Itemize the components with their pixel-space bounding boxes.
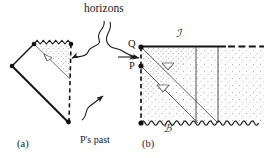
penrose-diagram-figure: horizons P's past light cone Q P ℐ ℬ (a)…: [0, 0, 267, 158]
label-point-q: Q: [128, 38, 136, 49]
panel-a-vertex-dot-top-left: [32, 42, 37, 47]
label-past-light-cone-line1: P's past: [80, 135, 120, 146]
label-null-infinity-scri: ℐ: [176, 28, 181, 40]
label-singularity-script-b: ℬ: [163, 123, 172, 135]
panel-a-vertex-dot-bottom: [66, 120, 71, 125]
panel-b-bottom-vertex-dot: [138, 120, 143, 125]
panel-a-boundary-upper-left: [12, 44, 34, 66]
label-horizons: horizons: [84, 2, 124, 14]
panel-a-vertex-dot-left: [10, 64, 15, 69]
connector-horizons-to-panel-a: [72, 21, 104, 58]
panel-a-boundary-lower-right: [12, 66, 68, 122]
label-panel-b: (b): [142, 138, 154, 149]
label-past-light-cone: P's past light cone: [80, 113, 120, 158]
diagram-canvas: [0, 0, 267, 158]
panel-a-group: [10, 40, 74, 124]
panel-a-vertex-dot-top-right: [69, 42, 74, 47]
panel-b-point-P-dot: [138, 63, 143, 68]
label-point-p: P: [129, 60, 135, 71]
label-panel-a: (a): [17, 138, 29, 149]
panel-a-wavy-singularity: [34, 40, 71, 44]
panel-b-point-Q-dot: [138, 44, 143, 49]
